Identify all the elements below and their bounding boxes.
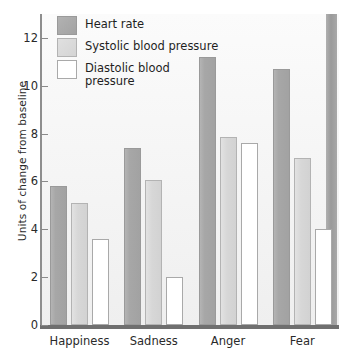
bar-happiness-hr bbox=[50, 186, 67, 325]
y-tick-label: 10 bbox=[16, 79, 38, 93]
y-tick-mark bbox=[41, 325, 48, 326]
bar-happiness-dbp bbox=[92, 239, 109, 325]
x-axis-line bbox=[40, 325, 339, 329]
y-tick-label: 6 bbox=[16, 174, 38, 188]
x-label-anger: Anger bbox=[211, 334, 245, 348]
x-axis-category-labels: HappinessSadnessAngerFear bbox=[42, 334, 339, 356]
y-tick-label: 8 bbox=[16, 127, 38, 141]
y-axis-tick-labels: 024681012 bbox=[14, 0, 38, 364]
x-label-fear: Fear bbox=[290, 334, 315, 348]
x-label-sadness: Sadness bbox=[130, 334, 178, 348]
diastolic-swatch bbox=[57, 60, 77, 79]
bar-anger-dbp bbox=[241, 143, 258, 325]
legend-item: Heart rate bbox=[57, 16, 227, 35]
bar-fear-hr bbox=[273, 69, 290, 325]
chart-legend: Heart rateSystolic blood pressureDiastol… bbox=[57, 16, 227, 90]
x-label-happiness: Happiness bbox=[50, 334, 110, 348]
legend-item: Systolic blood pressure bbox=[57, 38, 227, 57]
y-tick-label: 4 bbox=[16, 222, 38, 236]
bar-fear-sbp bbox=[294, 158, 311, 325]
legend-item-label: Diastolic blood pressure bbox=[85, 60, 170, 87]
legend-item: Diastolic blood pressure bbox=[57, 60, 227, 87]
y-tick-label: 2 bbox=[16, 270, 38, 284]
bar-sadness-sbp bbox=[145, 180, 162, 325]
bar-happiness-sbp bbox=[71, 203, 88, 325]
heart-rate-swatch bbox=[57, 16, 77, 35]
systolic-swatch bbox=[57, 38, 77, 57]
bar-sadness-dbp bbox=[166, 277, 183, 325]
legend-item-label: Systolic blood pressure bbox=[85, 38, 218, 53]
legend-item-label: Heart rate bbox=[85, 16, 144, 31]
bar-fear-dbp bbox=[315, 229, 332, 325]
y-tick-label: 0 bbox=[16, 318, 38, 332]
bar-sadness-hr bbox=[124, 148, 141, 325]
bar-chart-figure: Units of change from baseline 024681012 … bbox=[0, 0, 343, 364]
y-tick-label: 12 bbox=[16, 31, 38, 45]
bar-anger-sbp bbox=[220, 137, 237, 325]
bar-anger-hr bbox=[199, 57, 216, 325]
